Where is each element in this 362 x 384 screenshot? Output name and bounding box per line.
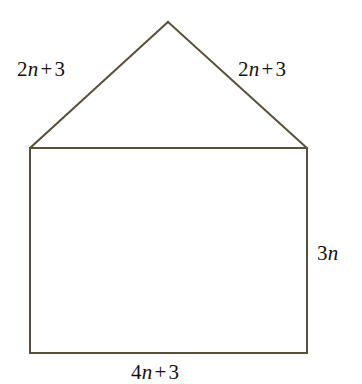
triangle-right-slant-edge bbox=[168, 22, 307, 148]
bottom-side-coefficient: 4 bbox=[131, 360, 142, 384]
right-slant-coefficient: 2 bbox=[238, 57, 249, 81]
geometry-figure-canvas: 2n+3 2n+3 3n 4n+3 bbox=[0, 0, 362, 384]
triangle-left-slant-edge bbox=[30, 22, 168, 148]
left-slant-variable: n bbox=[28, 57, 39, 81]
left-slant-constant: 3 bbox=[54, 57, 65, 81]
right-slant-operator: + bbox=[259, 57, 275, 81]
bottom-side-constant: 3 bbox=[168, 360, 179, 384]
dimension-label-right-slant: 2n+3 bbox=[238, 59, 286, 80]
bottom-side-operator: + bbox=[152, 360, 168, 384]
right-side-variable: n bbox=[328, 241, 339, 265]
right-slant-constant: 3 bbox=[275, 57, 286, 81]
left-slant-operator: + bbox=[38, 57, 54, 81]
dimension-label-right-side: 3n bbox=[317, 243, 338, 264]
dimension-label-bottom-side: 4n+3 bbox=[131, 362, 179, 383]
left-slant-coefficient: 2 bbox=[17, 57, 28, 81]
bottom-side-variable: n bbox=[142, 360, 153, 384]
dimension-label-left-slant: 2n+3 bbox=[17, 59, 65, 80]
right-slant-variable: n bbox=[249, 57, 260, 81]
right-side-coefficient: 3 bbox=[317, 241, 328, 265]
